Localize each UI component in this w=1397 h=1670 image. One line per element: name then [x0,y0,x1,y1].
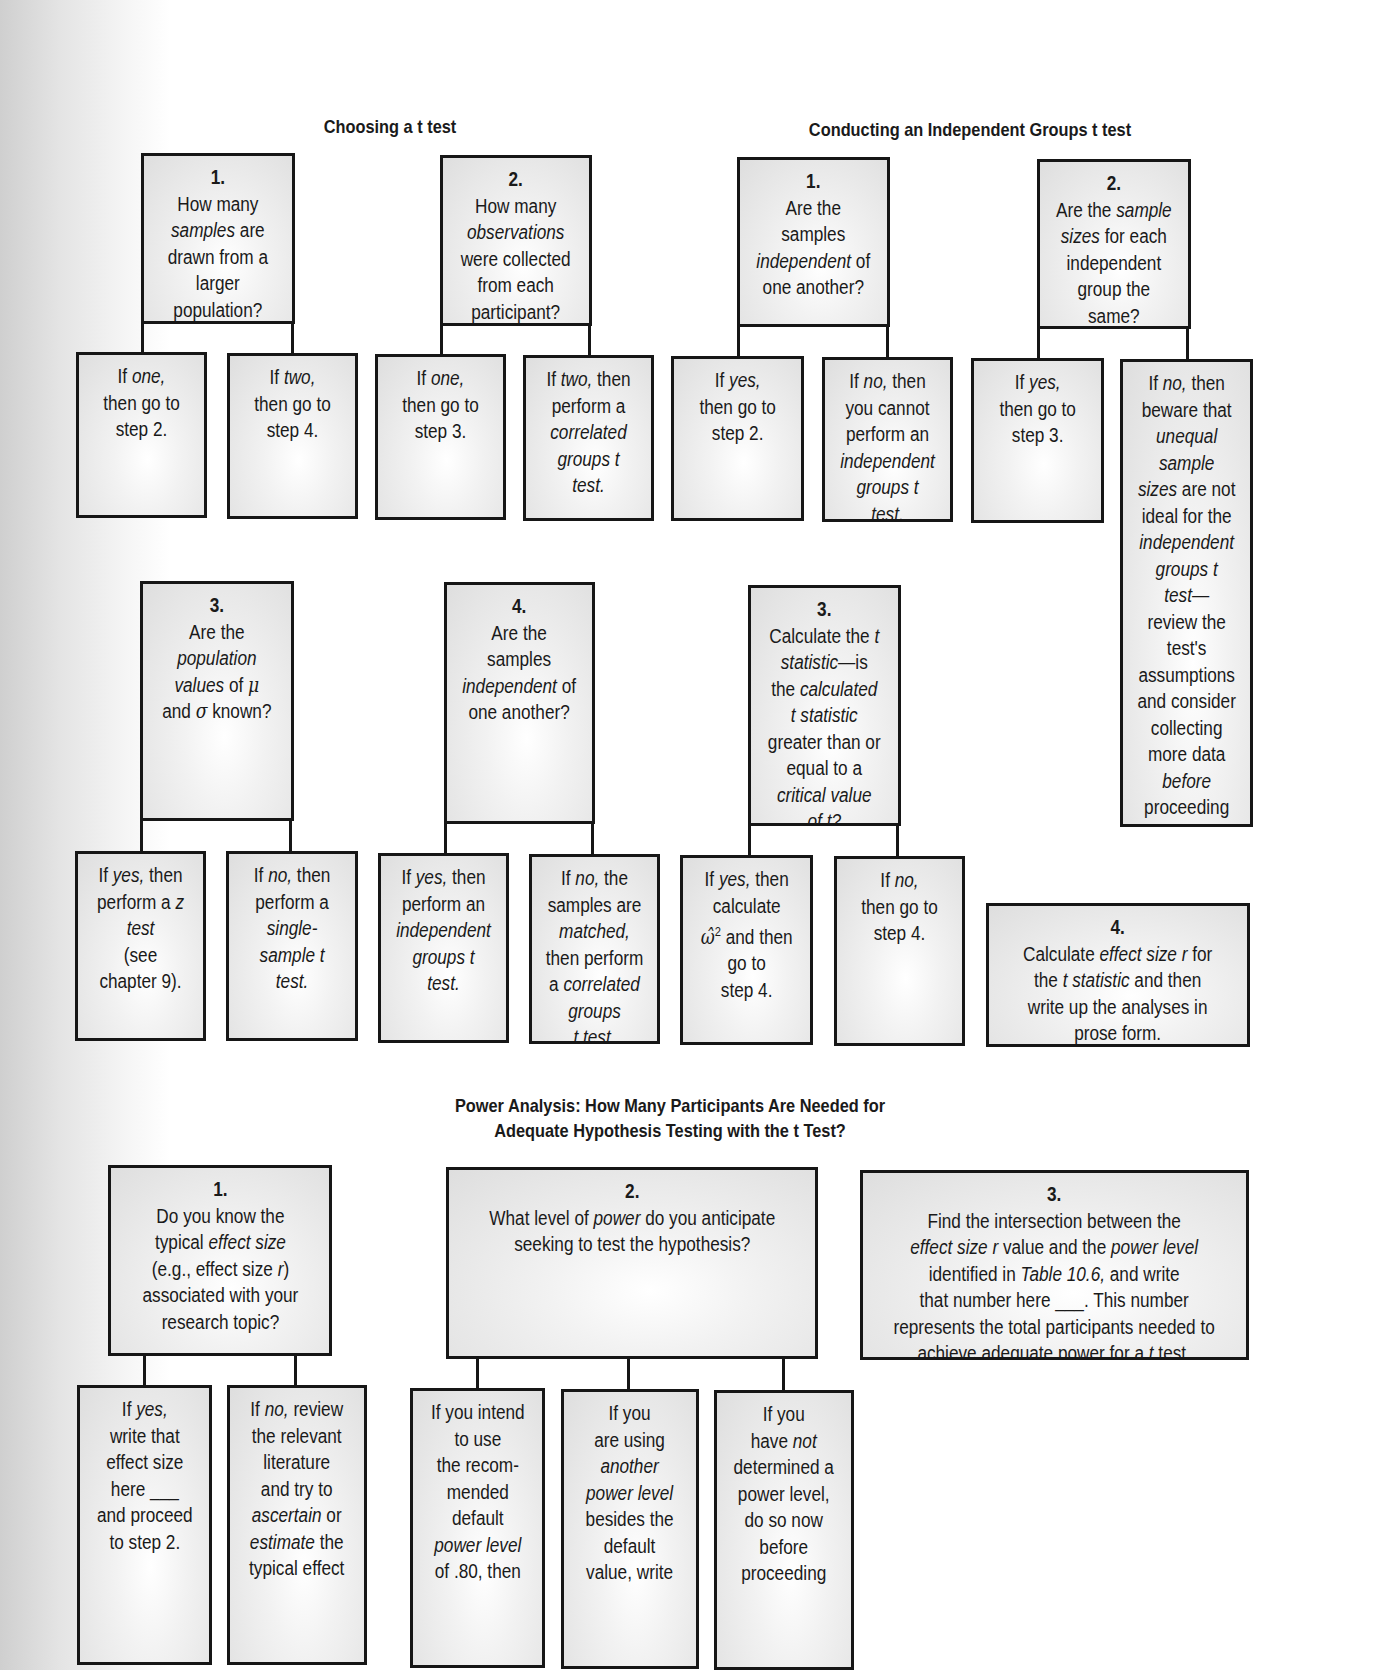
conducting-step2-no-box: If no, thenbeware thatunequalsamplesizes… [1120,359,1253,827]
step-number: 3. [863,1181,1245,1208]
power-step2-not-determined-box: If youhave notdetermined apower level,do… [714,1390,854,1670]
power-step1-box: 1.Do you know thetypical effect size(e.g… [108,1165,332,1356]
choosing-step4-box: 4.Are thesamplesindependent ofone anothe… [444,582,595,824]
step-number: 3. [751,596,898,623]
conducting-step1-yes-box: If yes,then go tostep 2. [671,356,804,521]
section-title-choosing: Choosing a t test [270,114,511,139]
connector [591,822,594,855]
connector [140,819,143,853]
connector [896,824,899,857]
conducting-step4-box: 4.Calculate effect size r forthe t stati… [986,903,1250,1047]
power-step2-box: 2.What level of power do you anticipates… [446,1167,818,1359]
conducting-step2-yes-box: If yes,then go tostep 3. [971,358,1104,523]
power-step2-another-box: If youare usinganotherpower levelbesides… [561,1389,699,1669]
step-number: 2. [1040,170,1188,197]
conducting-step1-no-box: If no, thenyou cannotperform anindepende… [822,357,953,522]
connector [476,1357,479,1390]
choosing-step3-no-box: If no, thenperform asingle-sample ttest. [226,851,358,1041]
choosing-step1-one-box: If one,then go tostep 2. [76,352,207,518]
connector [143,1354,146,1387]
step-number: 1. [111,1176,328,1203]
conducting-step1-box: 1.Are thesamplesindependent ofone anothe… [737,157,890,327]
step-number: 1. [740,168,887,195]
connector [294,1354,297,1387]
power-step1-yes-box: If yes,write thateffect sizehere ___and … [77,1385,212,1665]
connector [440,324,443,356]
choosing-step4-yes-box: If yes, thenperform anindependentgroups … [378,853,509,1043]
connector [588,324,591,356]
choosing-step2-one-box: If one,then go tostep 3. [375,354,506,520]
choosing-step4-no-box: If no, thesamples arematched,then perfor… [529,854,660,1044]
connector [291,322,294,354]
choosing-step1-two-box: If two,then go tostep 4. [227,353,358,519]
choosing-step3-box: 3.Are thepopulationvalues of μand σ know… [140,581,294,821]
connector [737,325,740,358]
choosing-step1-box: 1.How manysamples aredrawn from alargerp… [141,153,295,324]
step-number: 3. [143,592,291,619]
connector [444,822,447,855]
conducting-step3-yes-box: If yes, thencalculateω̂2 and thengo tost… [680,855,813,1045]
step-number: 2. [443,166,589,193]
section-title-power-1: Power Analysis: How Many Participants Ar… [446,1093,893,1118]
choosing-step2-box: 2.How manyobservationswere collectedfrom… [440,155,592,326]
section-title-conducting: Conducting an Independent Groups t test [807,117,1134,142]
choosing-step2-two-box: If two, thenperform acorrelatedgroups tt… [523,355,654,521]
connector [782,1357,785,1390]
power-step2-default-box: If you intendto usethe recom-mendeddefau… [410,1388,545,1668]
connector [1186,327,1189,360]
connector [141,322,144,354]
power-step3-box: 3.Find the intersection between theeffec… [860,1170,1249,1360]
section-title-power-2: Adequate Hypothesis Testing with the t T… [446,1118,893,1143]
connector [748,824,751,857]
conducting-step3-box: 3.Calculate the tstatistic—isthe calcula… [748,585,901,826]
step-number: 4. [447,593,592,620]
choosing-step3-yes-box: If yes, thenperform a ztest(seechapter 9… [75,851,206,1041]
power-step1-no-box: If no, reviewthe relevantliteratureand t… [227,1385,367,1665]
connector [289,819,292,853]
connector [1037,327,1040,360]
step-number: 2. [449,1178,814,1205]
step-number: 4. [989,914,1246,941]
connector [627,1357,630,1390]
connector [886,325,889,358]
conducting-step2-box: 2.Are the samplesizes for eachindependen… [1037,159,1191,329]
step-number: 1. [144,164,292,191]
conducting-step3-no-box: If no,then go tostep 4. [834,856,965,1046]
